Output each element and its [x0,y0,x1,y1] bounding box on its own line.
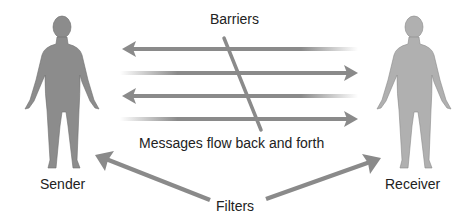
sender-label: Sender [40,177,85,191]
filter-arrow-to-sender-icon [95,151,210,200]
communication-diagram: Barriers Messages flow back and forth Se… [0,0,476,222]
messages-label: Messages flow back and forth [139,136,324,150]
sender-figure-icon [25,16,99,168]
barriers-label: Barriers [210,12,259,26]
message-arrows [120,41,358,127]
arrow-left-icon [122,88,358,104]
arrow-left-icon [122,41,358,57]
filters-label: Filters [216,199,254,213]
filter-arrow-to-receiver-icon [266,154,381,199]
barrier-line [224,38,261,130]
receiver-figure-icon [377,16,451,168]
arrow-right-icon [120,111,358,127]
receiver-label: Receiver [385,177,440,191]
